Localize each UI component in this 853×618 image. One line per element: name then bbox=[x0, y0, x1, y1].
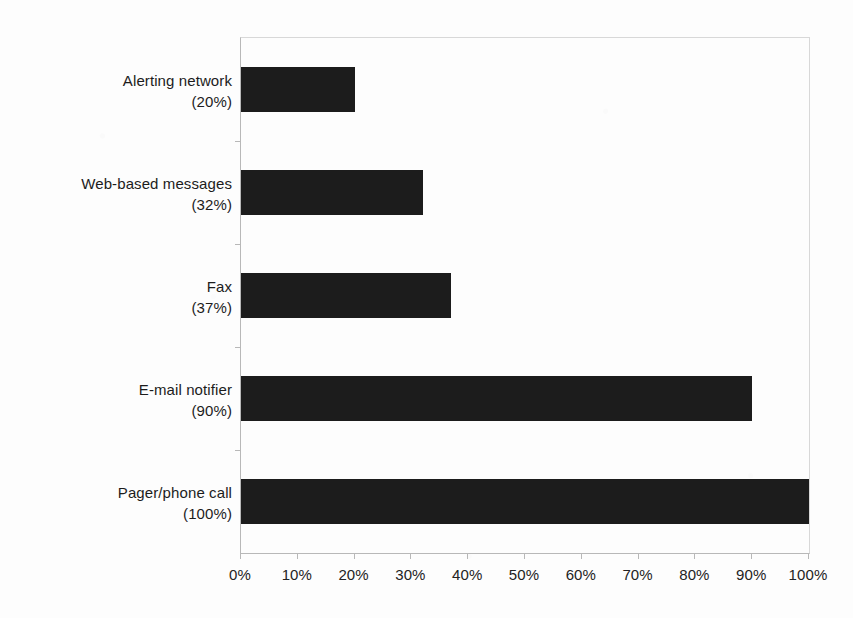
x-axis-tick bbox=[581, 553, 582, 559]
category-band bbox=[241, 450, 809, 553]
y-axis-tick bbox=[235, 450, 241, 451]
category-label-value: (100%) bbox=[0, 503, 232, 524]
category-label-value: (37%) bbox=[0, 297, 232, 318]
category-band bbox=[241, 347, 809, 450]
category-label-alerting-network: Alerting network (20%) bbox=[0, 70, 232, 112]
x-axis-tick bbox=[808, 553, 809, 559]
bar-fax bbox=[241, 273, 451, 318]
category-label-fax: Fax (37%) bbox=[0, 276, 232, 318]
x-axis-tick bbox=[524, 553, 525, 559]
y-axis-tick bbox=[235, 347, 241, 348]
category-label-name: Pager/phone call bbox=[0, 482, 232, 503]
category-band bbox=[241, 38, 809, 141]
bar-web-based-messages bbox=[241, 170, 423, 215]
x-axis-tick bbox=[467, 553, 468, 559]
x-axis-tick bbox=[694, 553, 695, 559]
horizontal-bar-chart: Alerting network (20%) Web-based message… bbox=[0, 0, 853, 618]
category-band bbox=[241, 244, 809, 347]
x-axis-tick bbox=[638, 553, 639, 559]
category-label-pager-phone-call: Pager/phone call (100%) bbox=[0, 482, 232, 524]
category-label-value: (32%) bbox=[0, 194, 232, 215]
plot-area bbox=[240, 37, 810, 554]
y-axis-tick bbox=[235, 141, 241, 142]
bar-alerting-network bbox=[241, 67, 355, 112]
category-label-email-notifier: E-mail notifier (90%) bbox=[0, 379, 232, 421]
category-label-name: E-mail notifier bbox=[0, 379, 232, 400]
x-axis-tick bbox=[751, 553, 752, 559]
category-label-name: Fax bbox=[0, 276, 232, 297]
bar-email-notifier bbox=[241, 376, 752, 421]
bar-pager-phone-call bbox=[241, 479, 809, 524]
x-axis-tick-label: 100% bbox=[773, 566, 843, 583]
category-label-name: Alerting network bbox=[0, 70, 232, 91]
x-axis-tick bbox=[297, 553, 298, 559]
x-axis-tick bbox=[410, 553, 411, 559]
category-label-value: (20%) bbox=[0, 91, 232, 112]
category-label-value: (90%) bbox=[0, 400, 232, 421]
category-label-web-based-messages: Web-based messages (32%) bbox=[0, 173, 232, 215]
category-band bbox=[241, 141, 809, 244]
x-axis-tick bbox=[354, 553, 355, 559]
y-axis-tick bbox=[235, 244, 241, 245]
category-label-name: Web-based messages bbox=[0, 173, 232, 194]
x-axis-tick bbox=[240, 553, 241, 559]
